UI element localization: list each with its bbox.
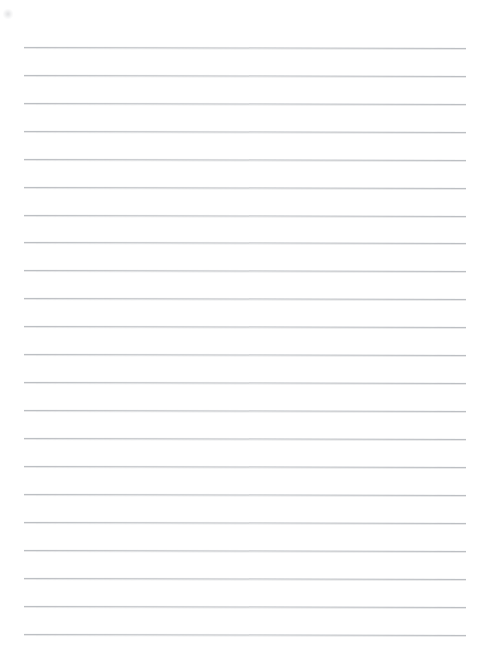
rule-line xyxy=(24,131,466,133)
rule-line xyxy=(24,550,466,552)
rule-line xyxy=(24,410,466,412)
ruled-lines-group xyxy=(0,0,483,666)
rule-line xyxy=(24,354,466,356)
rule-line xyxy=(24,215,466,217)
rule-line xyxy=(24,634,466,636)
rule-line xyxy=(24,578,466,580)
rule-line xyxy=(24,47,466,49)
rule-line xyxy=(24,298,466,300)
rule-line xyxy=(24,75,466,77)
rule-line xyxy=(24,242,466,244)
rule-line xyxy=(24,494,466,496)
rule-line xyxy=(24,103,466,105)
rule-line xyxy=(24,606,466,608)
rule-line xyxy=(24,187,466,189)
lined-paper-page xyxy=(0,0,483,666)
rule-line xyxy=(24,159,466,161)
rule-line xyxy=(24,326,466,328)
rule-line xyxy=(24,270,466,272)
rule-line xyxy=(24,438,466,440)
rule-line xyxy=(24,466,466,468)
rule-line xyxy=(24,382,466,384)
rule-line xyxy=(24,522,466,524)
